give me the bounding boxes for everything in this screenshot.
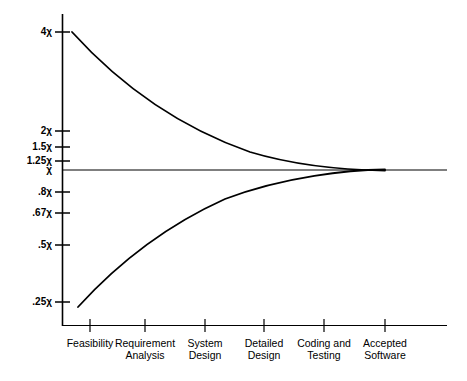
lower-bound-curve	[78, 170, 385, 308]
upper-bound-curve	[72, 32, 385, 171]
x-category-accepted-software-line2: Software	[335, 349, 435, 361]
x-category-accepted-software-line1: Accepted	[363, 337, 407, 349]
y-tick-label-point25x: .25χ	[0, 297, 52, 307]
y-tick-label-x: χ	[0, 165, 52, 175]
cone-of-uncertainty-chart: 4χ 2χ 1.5χ 1.25χ χ .8χ .67χ .5χ .25χ Fea…	[0, 0, 467, 381]
y-tick-label-2x: 2χ	[0, 126, 52, 136]
y-tick-label-point5x: .5χ	[0, 240, 52, 250]
x-category-accepted-software: Accepted Software	[335, 337, 435, 361]
y-tick-label-point8x: .8χ	[0, 187, 52, 197]
y-tick-label-1-5x: 1.5χ	[0, 142, 52, 152]
chart-plot-area	[0, 0, 467, 381]
y-tick-label-4x: 4χ	[0, 27, 52, 37]
y-tick-label-point67x: .67χ	[0, 208, 52, 218]
